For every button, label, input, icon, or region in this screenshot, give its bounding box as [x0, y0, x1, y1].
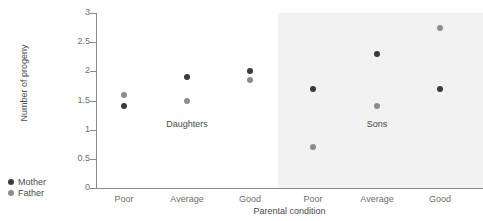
y-tick-label: 1 — [50, 125, 90, 134]
panel-label-sons: Sons — [332, 119, 422, 129]
data-point — [310, 86, 316, 92]
y-tick-mark — [90, 188, 96, 189]
legend-label-mother: Mother — [18, 177, 46, 187]
y-tick-mark — [90, 130, 96, 131]
x-tick-label: Poor — [278, 194, 348, 204]
y-axis-line — [96, 13, 97, 188]
legend-label-father: Father — [18, 188, 44, 198]
data-point — [437, 25, 443, 31]
y-tick-label: 2.5 — [50, 37, 90, 46]
y-tick-mark — [90, 42, 96, 43]
data-point — [437, 86, 443, 92]
data-point — [247, 77, 253, 83]
x-tick-label: Good — [215, 194, 285, 204]
legend-item: Father — [8, 187, 46, 198]
x-tick-label: Poor — [89, 194, 159, 204]
legend-dot-mother-icon — [8, 179, 14, 185]
y-tick-mark — [90, 13, 96, 14]
y-tick-label: 2 — [50, 66, 90, 75]
y-tick-label: 0 — [50, 183, 90, 192]
y-tick-mark — [90, 101, 96, 102]
chart-figure: Number of progeny Parental condition 00.… — [0, 0, 483, 221]
data-point — [374, 51, 380, 57]
x-tick-label: Average — [152, 194, 222, 204]
y-tick-mark — [90, 159, 96, 160]
data-point — [121, 103, 127, 109]
panel-label-daughters: Daughters — [142, 119, 232, 129]
x-axis-line — [96, 188, 483, 189]
legend-dot-father-icon — [8, 190, 14, 196]
x-axis-label: Parental condition — [96, 206, 483, 216]
data-point — [184, 98, 190, 104]
data-point — [121, 92, 127, 98]
y-tick-label: 3 — [50, 8, 90, 17]
legend: Mother Father — [8, 176, 46, 198]
data-point — [184, 74, 190, 80]
x-tick-label: Good — [405, 194, 475, 204]
y-axis-label: Number of progeny — [19, 23, 29, 143]
y-tick-label: 1.5 — [50, 96, 90, 105]
panel-shade-sons — [278, 13, 483, 188]
data-point — [247, 68, 253, 74]
legend-item: Mother — [8, 176, 46, 187]
x-tick-label: Average — [342, 194, 412, 204]
y-tick-mark — [90, 71, 96, 72]
y-tick-label: 0.5 — [50, 154, 90, 163]
